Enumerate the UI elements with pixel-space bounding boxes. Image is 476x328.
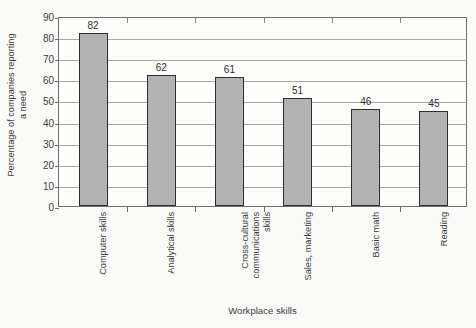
top-axis-tick-mark bbox=[400, 18, 401, 23]
gridline bbox=[59, 166, 466, 167]
chart-figure: Percentage of companies reporting a need… bbox=[0, 0, 476, 328]
bar-value-label: 46 bbox=[360, 96, 371, 107]
y-axis-title: Percentage of companies reporting a need bbox=[0, 0, 34, 210]
y-axis-tick-mark bbox=[55, 145, 59, 146]
x-axis-category-label: Analytical skills bbox=[166, 212, 180, 298]
gridline bbox=[59, 39, 466, 40]
x-axis-category-label-line: Basic math bbox=[371, 212, 382, 298]
x-axis-category-label-line: communications bbox=[251, 212, 262, 298]
x-axis-tick-mark bbox=[127, 206, 128, 212]
bar bbox=[419, 111, 448, 206]
x-axis-tick-mark bbox=[332, 206, 333, 212]
bar-value-label: 61 bbox=[224, 64, 235, 75]
y-axis-tick-label: 10 bbox=[33, 180, 54, 191]
bar-value-label: 45 bbox=[428, 98, 439, 109]
y-axis-tick-mark bbox=[55, 39, 59, 40]
x-axis-category-label-line: Computer skills bbox=[98, 212, 109, 298]
y-axis-tick-label: 60 bbox=[33, 75, 54, 86]
y-axis-tick-label: 40 bbox=[33, 117, 54, 128]
bar bbox=[79, 33, 108, 206]
top-axis-tick-mark bbox=[264, 18, 265, 23]
x-axis-category-label-line: Reading bbox=[439, 212, 450, 298]
y-axis-tick-label: 20 bbox=[33, 159, 54, 170]
y-axis-tick-labels: 0102030405060708090 bbox=[33, 0, 54, 328]
y-axis-tick-mark bbox=[55, 81, 59, 82]
y-axis-tick-mark bbox=[55, 187, 59, 188]
y-axis-tick-label: 50 bbox=[33, 96, 54, 107]
gridline bbox=[59, 187, 466, 188]
top-axis-tick-mark bbox=[195, 18, 196, 23]
gridline bbox=[59, 124, 466, 125]
y-axis-title-line-1: Percentage of companies reporting bbox=[6, 33, 16, 176]
y-axis-tick-mark bbox=[55, 102, 59, 103]
x-axis-category-label-line: skills bbox=[262, 212, 273, 298]
y-axis-tick-label: 30 bbox=[33, 138, 54, 149]
bar-value-label: 51 bbox=[292, 85, 303, 96]
x-axis-category-label-line: Sales, marketing bbox=[303, 212, 314, 298]
gridline bbox=[59, 145, 466, 146]
y-axis-tick-label: 80 bbox=[33, 33, 54, 44]
bar bbox=[147, 75, 176, 206]
y-axis-tick-mark bbox=[55, 18, 59, 19]
bar bbox=[215, 77, 244, 206]
y-axis-tick-mark bbox=[55, 124, 59, 125]
y-axis-tick-mark bbox=[55, 208, 59, 209]
x-axis-category-label-line: Analytical skills bbox=[166, 212, 177, 298]
x-axis-category-label: Sales, marketing bbox=[303, 212, 317, 298]
x-axis-title: Workplace skills bbox=[58, 305, 467, 316]
x-axis-category-label: Cross-culturalcommunicationsskills bbox=[240, 212, 276, 298]
y-axis-tick-mark bbox=[55, 166, 59, 167]
bar bbox=[283, 98, 312, 206]
plot-area: 826261514645 bbox=[58, 17, 467, 207]
bar-value-label: 82 bbox=[88, 20, 99, 31]
top-axis-tick-mark bbox=[127, 18, 128, 23]
gridline bbox=[59, 81, 466, 82]
bar-value-label: 62 bbox=[156, 62, 167, 73]
gridline bbox=[59, 102, 466, 103]
y-axis-tick-label: 0 bbox=[33, 202, 54, 213]
x-axis-category-label-line: Cross-cultural bbox=[240, 212, 251, 298]
x-axis-category-label: Reading bbox=[439, 212, 453, 298]
y-axis-tick-label: 90 bbox=[33, 12, 54, 23]
top-axis-tick-mark bbox=[332, 18, 333, 23]
x-axis-category-label: Computer skills bbox=[98, 212, 112, 298]
x-axis-tick-mark bbox=[195, 206, 196, 212]
bar bbox=[351, 109, 380, 206]
gridline bbox=[59, 60, 466, 61]
y-axis-title-line-2: a need bbox=[17, 33, 29, 176]
x-axis-category-label: Basic math bbox=[371, 212, 385, 298]
x-axis-tick-mark bbox=[400, 206, 401, 212]
y-axis-tick-mark bbox=[55, 60, 59, 61]
y-axis-tick-label: 70 bbox=[33, 54, 54, 65]
